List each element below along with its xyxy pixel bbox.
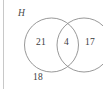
venn-diagram-figure: H 21 4 17 18 — [0, 0, 103, 89]
region-right-only-value: 17 — [85, 38, 95, 48]
region-outside-value: 18 — [33, 73, 43, 83]
universe-label: H — [18, 9, 25, 19]
region-intersection-value: 4 — [64, 38, 69, 48]
region-left-only-value: 21 — [36, 38, 46, 48]
left-set-circle — [25, 18, 79, 72]
